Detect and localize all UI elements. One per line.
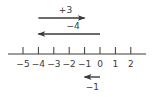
tick-label: 1	[113, 59, 119, 69]
arrow-label: +3	[59, 5, 72, 15]
arrow-label: −4	[67, 21, 81, 31]
number-line-diagram: −5−4−3−2−1012 +3−4−1	[0, 0, 155, 97]
tick-label: 2	[128, 59, 134, 69]
tick-label: −3	[47, 59, 60, 69]
tick-label: −4	[32, 59, 46, 69]
tick-label: −5	[16, 59, 29, 69]
tick-label: −1	[78, 59, 91, 69]
tick-label: −2	[63, 59, 76, 69]
arrow-label: −1	[86, 82, 99, 92]
tick-label: 0	[97, 59, 103, 69]
